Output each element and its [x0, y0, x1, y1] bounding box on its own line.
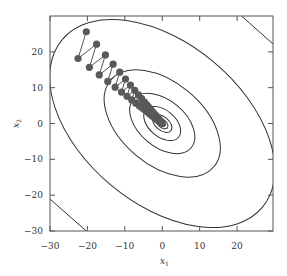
trajectory-point	[96, 71, 103, 78]
trajectory-point	[112, 84, 119, 91]
y-tick-label: 0	[37, 119, 43, 129]
x-tick-label: 10	[194, 241, 206, 251]
optimization-trajectory	[74, 28, 165, 127]
y-tick-label: −20	[24, 190, 43, 200]
contour-corner-segment	[242, 16, 273, 44]
trajectory-point	[83, 28, 90, 35]
x-tick-label: 0	[159, 241, 165, 251]
trajectory-point	[122, 76, 129, 83]
trajectory-point	[93, 41, 100, 48]
trajectory-point	[74, 55, 81, 62]
y-axis-label: x2	[11, 119, 22, 128]
y-tick-label: −30	[24, 226, 43, 236]
trajectory-point	[102, 51, 109, 58]
trajectory-point	[104, 78, 111, 85]
trajectory-point	[110, 61, 117, 68]
y-tick-label: −10	[24, 154, 43, 164]
contour-plot: −30−20−1001020 −30−20−1001020 x1 x2	[0, 0, 287, 276]
trajectory-point	[86, 64, 93, 71]
contour-lines	[11, 0, 287, 269]
x-axis-label: x1	[160, 256, 169, 267]
x-tick-label: −10	[115, 241, 134, 251]
y-axis-tick-labels: −30−20−1001020	[24, 47, 43, 236]
contour-corner-segment	[50, 199, 86, 231]
y-tick-label: 20	[32, 47, 44, 57]
x-tick-label: 20	[231, 241, 243, 251]
trajectory-point	[116, 69, 123, 76]
y-tick-label: 10	[32, 83, 44, 93]
trajectory-point	[159, 120, 166, 127]
contour-ellipse	[11, 0, 287, 269]
x-axis-tick-labels: −30−20−1001020	[41, 241, 244, 251]
x-tick-label: −20	[78, 241, 97, 251]
x-tick-label: −30	[41, 241, 60, 251]
